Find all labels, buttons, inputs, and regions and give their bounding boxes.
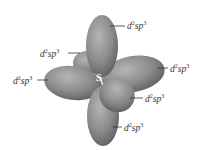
orbital-diagram: S d2sp3 d2sp3 d2sp3 d2sp3 d2sp3 d2sp3 — [0, 0, 206, 150]
label-back-left-lobe: d2sp3 — [40, 48, 59, 60]
label-sup-3: 3 — [161, 93, 164, 99]
label-left-lobe: d2sp3 — [13, 75, 32, 87]
central-atom-label: S — [96, 72, 102, 83]
label-sp: sp — [132, 123, 140, 133]
label-front-right-lobe: d2sp3 — [145, 93, 164, 105]
label-sup-3: 3 — [143, 20, 146, 26]
label-sup-3: 3 — [56, 48, 59, 54]
label-sup-3: 3 — [29, 75, 32, 81]
label-top-lobe: d2sp3 — [127, 20, 146, 32]
label-sp: sp — [178, 64, 186, 74]
label-sp: sp — [48, 49, 56, 59]
label-sp: sp — [153, 94, 161, 104]
label-sp: sp — [135, 21, 143, 31]
label-sp: sp — [21, 76, 29, 86]
label-sup-3: 3 — [140, 122, 143, 128]
label-sup-3: 3 — [186, 63, 189, 69]
label-right-lobe: d2sp3 — [170, 63, 189, 75]
label-bottom-lobe: d2sp3 — [124, 122, 143, 134]
lobe-top — [86, 15, 118, 77]
